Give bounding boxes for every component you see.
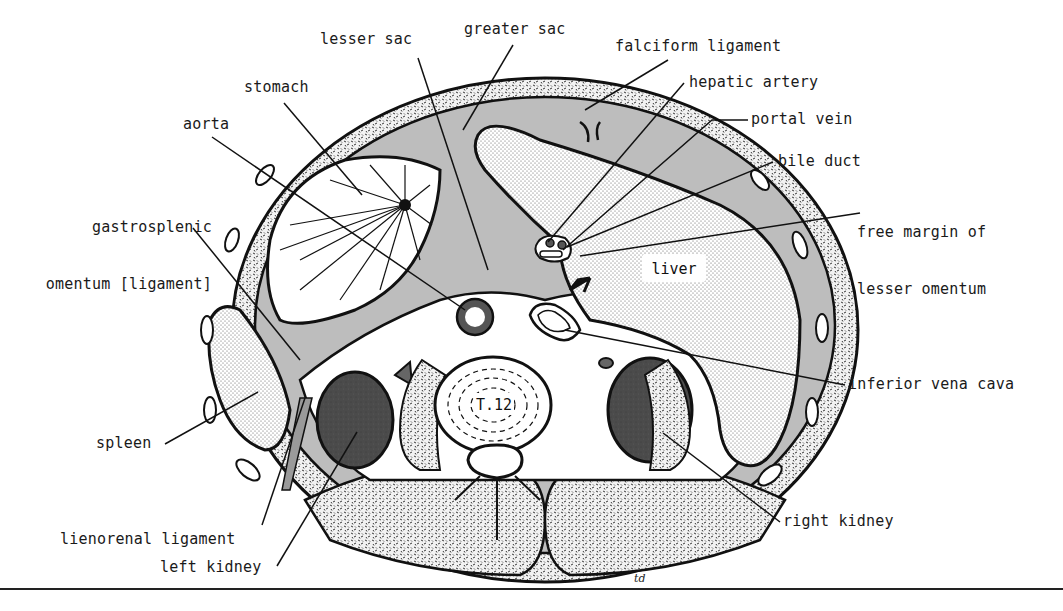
label-gastrosplenic-omentum: gastrosplenic omentum [ligament] — [20, 180, 212, 313]
label-lesser-sac: lesser sac — [320, 30, 412, 49]
label-right-kidney: right kidney — [783, 512, 894, 531]
label-spleen: spleen — [96, 434, 151, 453]
right-adrenal — [599, 358, 613, 368]
aorta — [457, 299, 493, 335]
label-lienorenal-ligament: lienorenal ligament — [60, 530, 235, 549]
label-gastrosplenic-line2: omentum [ligament] — [20, 275, 212, 294]
portal-vein-vessel — [540, 251, 562, 257]
label-portal-vein: portal vein — [751, 110, 853, 129]
artist-signature: td — [634, 572, 645, 585]
diagram-canvas: liver T.12 — [0, 0, 1063, 611]
vertebra-label: T.12 — [476, 396, 512, 414]
label-free-margin-line1: free margin of — [857, 223, 986, 242]
label-bile-duct: bile duct — [778, 152, 861, 171]
label-falciform-ligament: falciform ligament — [615, 37, 781, 56]
label-left-kidney: left kidney — [160, 558, 262, 577]
left-kidney — [317, 372, 393, 468]
label-aorta: aorta — [183, 115, 229, 134]
liver-label: liver — [651, 260, 696, 278]
label-free-margin-lesser-omentum: free margin of lesser omentum — [857, 185, 986, 318]
label-gastrosplenic-line1: gastrosplenic — [20, 218, 212, 237]
label-hepatic-artery: hepatic artery — [689, 73, 818, 92]
label-greater-sac: greater sac — [464, 20, 566, 39]
figure-baseline-rule — [0, 588, 1063, 590]
label-free-margin-line2: lesser omentum — [857, 280, 986, 299]
label-inferior-vena-cava: inferior vena cava — [848, 375, 1014, 394]
label-stomach: stomach — [244, 78, 309, 97]
